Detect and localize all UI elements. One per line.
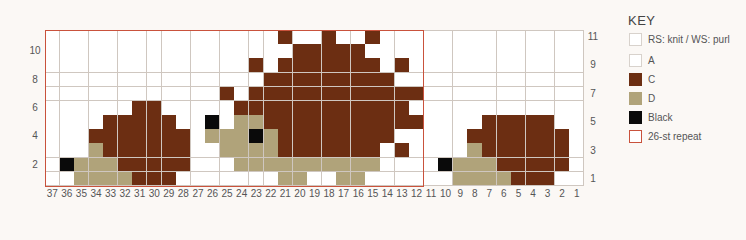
stitch-cell	[249, 87, 264, 102]
stitch-cell	[293, 44, 308, 59]
column-number: 7	[482, 188, 497, 199]
stitch-cell	[365, 58, 380, 73]
stitch-cell	[453, 129, 468, 144]
stitch-cell	[147, 115, 162, 130]
color-swatch	[629, 130, 642, 143]
stitch-cell	[497, 30, 512, 45]
stitch-cell	[147, 73, 162, 88]
stitch-cell	[147, 143, 162, 158]
stitch-cell	[322, 143, 337, 158]
row-number: 8	[28, 74, 42, 85]
column-number: 4	[526, 188, 541, 199]
row-number: 7	[586, 88, 600, 99]
column-number: 11	[424, 188, 439, 199]
stitch-cell	[322, 158, 337, 173]
stitch-cell	[307, 158, 322, 173]
color-swatch	[629, 92, 642, 105]
stitch-cell	[132, 30, 147, 45]
stitch-cell	[162, 101, 177, 116]
stitch-cell	[569, 30, 584, 45]
column-number: 35	[74, 188, 89, 199]
stitch-cell	[205, 158, 220, 173]
stitch-cell	[60, 44, 75, 59]
stitch-cell	[453, 87, 468, 102]
stitch-cell	[424, 44, 439, 59]
stitch-cell	[234, 44, 249, 59]
stitch-cell	[293, 73, 308, 88]
stitch-cell	[45, 58, 60, 73]
stitch-cell	[438, 129, 453, 144]
stitch-cell	[482, 73, 497, 88]
stitch-cell	[205, 101, 220, 116]
key-item-k: Black	[629, 110, 672, 124]
stitch-cell	[45, 73, 60, 88]
stitch-cell	[176, 101, 191, 116]
stitch-cell	[103, 129, 118, 144]
stitch-cell	[380, 44, 395, 59]
stitch-cell	[278, 30, 293, 45]
stitch-cell	[234, 143, 249, 158]
stitch-cell	[118, 115, 133, 130]
key-label: Black	[648, 112, 672, 123]
stitch-cell	[60, 58, 75, 73]
stitch-cell	[569, 101, 584, 116]
stitch-cell	[89, 129, 104, 144]
stitch-cell	[264, 44, 279, 59]
stitch-cell	[132, 129, 147, 144]
stitch-cell	[540, 143, 555, 158]
stitch-cell	[409, 58, 424, 73]
column-number: 32	[118, 188, 133, 199]
stitch-cell	[482, 58, 497, 73]
stitch-cell	[191, 101, 206, 116]
stitch-cell	[307, 172, 322, 187]
stitch-cell	[118, 30, 133, 45]
stitch-cell	[482, 115, 497, 130]
stitch-cell	[336, 129, 351, 144]
stitch-cell	[191, 44, 206, 59]
stitch-cell	[249, 58, 264, 73]
stitch-cell	[220, 101, 235, 116]
stitch-cell	[278, 44, 293, 59]
stitch-cell	[555, 129, 570, 144]
stitch-cell	[176, 143, 191, 158]
column-number: 25	[220, 188, 235, 199]
stitch-cell	[60, 143, 75, 158]
column-number: 8	[467, 188, 482, 199]
stitch-cell	[307, 73, 322, 88]
stitch-cell	[336, 58, 351, 73]
stitch-cell	[336, 44, 351, 59]
stitch-cell	[103, 30, 118, 45]
stitch-cell	[45, 172, 60, 187]
stitch-cell	[569, 58, 584, 73]
stitch-cell	[569, 158, 584, 173]
stitch-cell	[438, 158, 453, 173]
column-number: 26	[205, 188, 220, 199]
stitch-cell	[395, 143, 410, 158]
stitch-cell	[569, 143, 584, 158]
stitch-cell	[132, 73, 147, 88]
stitch-cell	[132, 115, 147, 130]
stitch-cell	[365, 158, 380, 173]
stitch-cell	[438, 58, 453, 73]
stitch-cell	[380, 87, 395, 102]
stitch-cell	[264, 58, 279, 73]
column-number: 31	[132, 188, 147, 199]
stitch-cell	[220, 129, 235, 144]
stitch-cell	[365, 44, 380, 59]
stitch-cell	[497, 73, 512, 88]
stitch-cell	[249, 143, 264, 158]
stitch-cell	[118, 143, 133, 158]
stitch-cell	[438, 101, 453, 116]
stitch-cell	[147, 129, 162, 144]
stitch-cell	[569, 115, 584, 130]
stitch-cell	[409, 30, 424, 45]
stitch-cell	[351, 158, 366, 173]
stitch-cell	[467, 115, 482, 130]
stitch-cell	[438, 30, 453, 45]
stitch-cell	[220, 87, 235, 102]
stitch-cell	[176, 129, 191, 144]
stitch-cell	[60, 101, 75, 116]
stitch-cell	[118, 58, 133, 73]
stitch-cell	[555, 115, 570, 130]
stitch-cell	[467, 129, 482, 144]
